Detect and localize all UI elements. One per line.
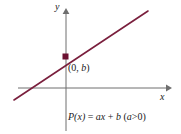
function-graph-figure: y x (0, b) P(x) = ax + b (a>0)	[0, 0, 181, 134]
equation-equals: =	[85, 111, 96, 122]
y-intercept-marker	[63, 54, 69, 60]
intercept-close-paren: )	[86, 62, 89, 73]
x-axis-label: x	[160, 92, 164, 102]
intercept-open-paren: (0,	[68, 62, 81, 73]
y-axis-label: y	[55, 2, 59, 12]
equation-caption: P(x) = ax + b (a>0)	[68, 112, 146, 122]
equation-slope-term: ax	[96, 111, 105, 122]
function-line	[14, 11, 148, 100]
x-axis-arrowhead	[166, 85, 172, 92]
equation-argument: (x)	[74, 111, 85, 122]
equation-plus-sign: +	[105, 111, 116, 122]
equation-condition-rest: >0)	[132, 111, 146, 122]
y-intercept-label: (0, b)	[68, 63, 90, 73]
y-axis-arrowhead	[63, 8, 70, 14]
